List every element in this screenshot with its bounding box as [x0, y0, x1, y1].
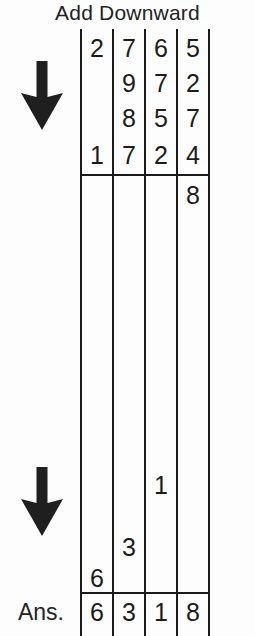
addend-cell-r1-tens: 6 — [145, 33, 177, 63]
worksheet-page: Add Downward 2 7 6 5 9 7 2 8 5 7 1 7 2 4… — [0, 0, 255, 636]
page-title: Add Downward — [0, 1, 255, 25]
answer-cell-tens: 1 — [145, 597, 177, 627]
answer-cell-hundreds: 3 — [113, 597, 145, 627]
partial-sum-hundreds: 3 — [113, 532, 145, 562]
addend-total-rule — [81, 174, 210, 176]
addend-cell-r1-thousands: 2 — [81, 33, 113, 63]
down-arrow-icon-top — [18, 60, 66, 132]
answer-cell-ones: 8 — [177, 597, 209, 627]
addend-cell-r4-ones: 4 — [177, 140, 209, 170]
addend-cell-r4-thousands: 1 — [81, 140, 113, 170]
partial-sum-tens: 1 — [145, 470, 177, 500]
addend-cell-r1-ones: 5 — [177, 33, 209, 63]
down-arrow-icon-bottom — [18, 466, 66, 538]
column-rule-left-edge — [80, 29, 82, 636]
addend-cell-r1-hundreds: 7 — [113, 33, 145, 63]
addend-cell-r2-ones: 2 — [177, 68, 209, 98]
addend-cell-r4-tens: 2 — [145, 140, 177, 170]
addend-cell-r2-tens: 7 — [145, 68, 177, 98]
partial-sum-thousands: 6 — [81, 563, 113, 593]
addend-cell-r2-hundreds: 9 — [113, 68, 145, 98]
answer-cell-thousands: 6 — [81, 597, 113, 627]
addend-cell-r3-tens: 5 — [145, 103, 177, 133]
answer-label: Ans. — [4, 597, 78, 627]
addend-cell-r3-ones: 7 — [177, 103, 209, 133]
partial-sum-ones: 8 — [177, 180, 209, 210]
addend-cell-r4-hundreds: 7 — [113, 140, 145, 170]
addend-cell-r3-hundreds: 8 — [113, 103, 145, 133]
